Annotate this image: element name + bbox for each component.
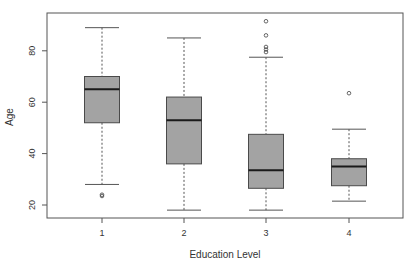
- x-axis-label: Education Level: [189, 249, 260, 260]
- boxplot-chart: 20406080 1234 Education Level Age: [0, 0, 410, 264]
- x-tick-label: 4: [346, 228, 351, 238]
- outlier-point: [264, 19, 268, 23]
- iqr-box: [332, 159, 367, 186]
- iqr-box: [167, 97, 202, 164]
- outlier-point: [264, 45, 268, 49]
- box-group-4: [332, 91, 367, 201]
- box-group-3: [249, 19, 284, 210]
- x-tick-label: 2: [181, 228, 186, 238]
- y-tick-label: 80: [27, 46, 37, 56]
- box-group-2: [167, 38, 202, 210]
- y-tick-label: 40: [27, 149, 37, 159]
- x-tick-label: 1: [99, 228, 104, 238]
- iqr-box: [85, 77, 120, 123]
- y-tick-label: 20: [27, 200, 37, 210]
- x-axis: 1234: [99, 218, 351, 238]
- outlier-point: [347, 91, 351, 95]
- iqr-box: [249, 134, 284, 188]
- y-axis-label: Age: [4, 108, 15, 126]
- y-tick-label: 60: [27, 97, 37, 107]
- box-series: [85, 19, 367, 210]
- box-group-1: [85, 28, 120, 198]
- x-tick-label: 3: [263, 228, 268, 238]
- y-axis: 20406080: [27, 46, 47, 210]
- outlier-point: [264, 34, 268, 38]
